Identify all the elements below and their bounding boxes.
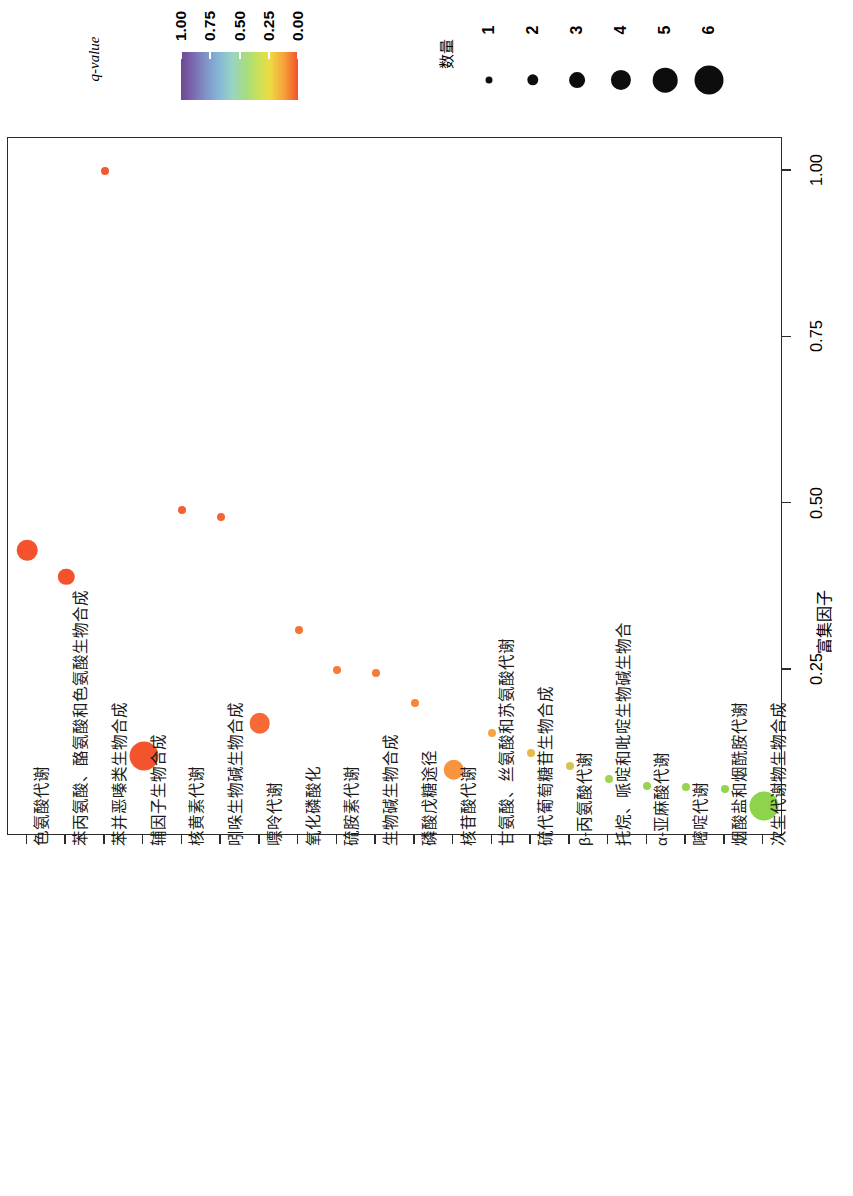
category-axis-label: 苯并恶嗪类生物合成 bbox=[93, 844, 117, 1196]
category-axis-tick bbox=[336, 835, 338, 844]
category-axis-tick bbox=[491, 835, 493, 844]
size-legend-title: 数量 bbox=[433, 25, 457, 83]
size-legend-item: 2 bbox=[510, 2, 556, 122]
color-legend-tick-label: 0.00 bbox=[276, 0, 320, 55]
bubble-point[interactable] bbox=[682, 783, 690, 791]
value-axis-tick bbox=[782, 502, 791, 504]
size-legend-item-dot bbox=[611, 70, 631, 90]
category-axis-label: 苯丙氨酸、酪氨酸和色氨酸生物合成 bbox=[54, 844, 78, 1196]
size-legend-item-label: 5 bbox=[643, 7, 687, 53]
category-axis-tick bbox=[297, 835, 299, 844]
category-axis-label-text: 托烷、哌啶和吡啶生物碱生物合 bbox=[616, 622, 632, 846]
legend-area: q-value 1.000.750.500.250.00 数量 123456 bbox=[0, 0, 853, 128]
category-axis-tick bbox=[568, 835, 570, 844]
category-axis-label: 核苷酸代谢 bbox=[442, 844, 466, 1196]
size-legend: 数量 123456 bbox=[428, 2, 698, 124]
size-legend-item-dot bbox=[653, 68, 678, 93]
category-axis-label: β-丙氨酸代谢 bbox=[558, 844, 582, 1196]
category-axis-label: 烟酸盐和烟酰胺代谢 bbox=[713, 844, 737, 1196]
value-axis-tick bbox=[782, 336, 791, 338]
bubble-point[interactable] bbox=[488, 729, 496, 737]
bubble-point[interactable] bbox=[178, 506, 186, 514]
bubble-point[interactable] bbox=[566, 762, 574, 770]
category-axis-label: α-亚麻酸代谢 bbox=[635, 844, 659, 1196]
bubble-point[interactable] bbox=[333, 666, 341, 674]
category-axis-label: 硫胺素代谢 bbox=[325, 844, 349, 1196]
value-axis-tick bbox=[782, 169, 791, 171]
category-axis-label: 嘌呤代谢 bbox=[248, 844, 272, 1196]
bubble-point[interactable] bbox=[17, 540, 38, 561]
bubble-point[interactable] bbox=[411, 699, 419, 707]
size-legend-item-dot bbox=[527, 74, 538, 85]
size-legend-item-label: 3 bbox=[555, 7, 599, 53]
size-legend-item-label: 1 bbox=[467, 7, 511, 53]
category-axis-label: 甘氨酸、丝氨酸和苏氨酸代谢 bbox=[480, 844, 504, 1196]
category-axis-tick bbox=[607, 835, 609, 844]
category-axis-label-text: 辅因子生物合成 bbox=[151, 734, 167, 846]
category-axis-label-text: 氧化磷酸化 bbox=[306, 766, 322, 846]
bubble-point[interactable] bbox=[101, 167, 109, 175]
category-axis-tick bbox=[26, 835, 28, 844]
bubble-point[interactable] bbox=[605, 775, 613, 783]
category-axis-label: 核黄素代谢 bbox=[170, 844, 194, 1196]
size-legend-item: 1 bbox=[466, 2, 512, 122]
category-axis-label-text: 苯并恶嗪类生物合成 bbox=[112, 702, 128, 846]
category-axis-label: 色氨酸代谢 bbox=[15, 844, 39, 1196]
category-axis-tick bbox=[142, 835, 144, 844]
bubble-point[interactable] bbox=[58, 569, 74, 585]
category-axis-tick bbox=[684, 835, 686, 844]
size-legend-item: 4 bbox=[598, 2, 644, 122]
category-axis-label: 次生代谢物生物合成 bbox=[752, 844, 776, 1196]
value-axis-tick-label: 1.00 bbox=[796, 142, 836, 198]
category-axis-label: 辅因子生物合成 bbox=[132, 844, 156, 1196]
size-legend-item-label: 4 bbox=[599, 7, 643, 53]
category-axis-label: 硫代葡萄糖苷生物合成 bbox=[519, 844, 543, 1196]
category-axis-tick bbox=[452, 835, 454, 844]
bubble-point[interactable] bbox=[295, 626, 303, 634]
category-axis-label-text: 色氨酸代谢 bbox=[34, 766, 50, 846]
category-axis-tick bbox=[219, 835, 221, 844]
bubble-point[interactable] bbox=[643, 782, 651, 790]
category-axis-tick bbox=[181, 835, 183, 844]
bubble-plot: 色氨酸代谢苯丙氨酸、酪氨酸和色氨酸生物合成苯并恶嗪类生物合成辅因子生物合成核黄素… bbox=[0, 128, 853, 1196]
category-axis-label: 生物碱生物合成 bbox=[364, 844, 388, 1196]
value-axis-title: 富集因子 bbox=[784, 599, 853, 645]
category-axis-label: 吲哚生物碱生物合成 bbox=[209, 844, 233, 1196]
category-axis-tick bbox=[413, 835, 415, 844]
category-axis-label-text: 硫胺素代谢 bbox=[344, 766, 360, 846]
category-axis-tick bbox=[723, 835, 725, 844]
value-axis-tick bbox=[782, 668, 791, 670]
category-axis-tick bbox=[103, 835, 105, 844]
bubble-point[interactable] bbox=[372, 669, 380, 677]
size-legend-item-dot bbox=[569, 72, 585, 88]
category-axis-label: 磷酸戊糖途径 bbox=[403, 844, 427, 1196]
value-axis-tick-label: 0.50 bbox=[796, 475, 836, 531]
category-axis-label-text: α-亚麻酸代谢 bbox=[654, 752, 670, 846]
category-axis-label-text: 嘌呤代谢 bbox=[267, 782, 283, 846]
size-legend-item-dot bbox=[486, 77, 493, 84]
category-axis-label-text: 次生代谢物生物合成 bbox=[771, 702, 787, 846]
category-axis-label-text: 烟酸盐和烟酰胺代谢 bbox=[732, 702, 748, 846]
bubble-point[interactable] bbox=[527, 749, 535, 757]
category-axis-label-text: 硫代葡萄糖苷生物合成 bbox=[538, 686, 554, 846]
value-axis-tick-label: 0.75 bbox=[796, 308, 836, 364]
color-gradient-bar bbox=[181, 52, 298, 100]
color-legend: q-value 1.000.750.500.250.00 bbox=[78, 4, 323, 124]
category-axis-label-text: 甘氨酸、丝氨酸和苏氨酸代谢 bbox=[499, 638, 515, 846]
size-legend-item: 5 bbox=[642, 2, 688, 122]
bubble-point[interactable] bbox=[217, 513, 225, 521]
category-axis-label: 嘧啶代谢 bbox=[674, 844, 698, 1196]
size-legend-item-label: 6 bbox=[687, 7, 731, 53]
size-legend-item: 3 bbox=[554, 2, 600, 122]
category-axis-label-text: 吲哚生物碱生物合成 bbox=[228, 702, 244, 846]
category-axis-label-text: 苯丙氨酸、酪氨酸和色氨酸生物合成 bbox=[73, 590, 89, 846]
category-axis-label-text: β-丙氨酸代谢 bbox=[577, 752, 593, 846]
category-axis-tick bbox=[646, 835, 648, 844]
color-legend-title: q-value bbox=[83, 29, 105, 89]
bubble-point[interactable] bbox=[721, 785, 729, 793]
category-axis-label: 托烷、哌啶和吡啶生物碱生物合 bbox=[597, 844, 621, 1196]
bubble-point[interactable] bbox=[250, 713, 271, 734]
category-axis-tick bbox=[529, 835, 531, 844]
category-axis-label-text: 磷酸戊糖途径 bbox=[422, 750, 438, 846]
size-legend-item: 6 bbox=[686, 2, 732, 122]
